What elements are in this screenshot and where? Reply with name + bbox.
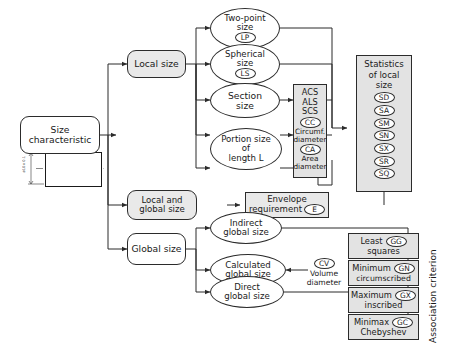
part-dimension-text: ø10±0.1 <box>22 156 26 173</box>
statistics-code-sm: SM <box>374 118 395 129</box>
section-abbr-scs: SCS <box>302 107 318 117</box>
local-and-global-line2: global size <box>139 205 185 214</box>
statistics-code-sr: SR <box>374 156 395 167</box>
direct-global-line2: global size <box>224 292 270 301</box>
criterion-maximum-inscribed[interactable]: Maximum GX inscribed <box>348 287 419 313</box>
statistics-code-sn: SN <box>374 130 395 141</box>
criterion-least-squares[interactable]: Least GG squares <box>348 233 419 259</box>
maximum-inscribed-line2: inscribed <box>365 301 403 310</box>
volume-diameter-code: CV <box>314 258 335 269</box>
spherical-size-code: LS <box>235 68 256 79</box>
association-criterion-label: Association criterion <box>428 233 438 343</box>
statistics-code-sx: SX <box>374 143 395 154</box>
section-code-ca: CA <box>300 144 321 155</box>
volume-diameter-caption-line2: diameter <box>307 278 341 287</box>
minimum-circumscribed-line2: circumscribed <box>356 274 411 283</box>
minimax-chebyshev-line1: Minimax <box>354 318 389 327</box>
section-ca-caption-line2: diameter <box>293 163 326 171</box>
minimum-circumscribed-code: GN <box>394 263 415 274</box>
node-portion-size[interactable]: Portion size of length L <box>210 128 282 170</box>
size-characteristic-line2: characteristic <box>29 135 92 145</box>
indirect-global-line2: global size <box>223 228 269 237</box>
local-size-label: Local size <box>134 59 179 69</box>
statistics-title-line1: Statistics <box>364 60 403 69</box>
minimax-chebyshev-line2: Chebyshev <box>361 328 407 337</box>
node-two-point-size[interactable]: Two-point size LP <box>210 8 280 49</box>
node-indirect-global-size[interactable]: Indirect global size <box>210 212 282 244</box>
least-squares-line2: squares <box>367 247 400 256</box>
criterion-minimum-circumscribed[interactable]: Minimum GN circumscribed <box>348 260 419 286</box>
two-point-size-code: LP <box>235 32 256 43</box>
portion-size-line3: length L <box>229 154 264 163</box>
two-point-size-line2: size <box>237 23 254 32</box>
node-size-characteristic[interactable]: Size characteristic <box>20 116 100 154</box>
statistics-code-sa: SA <box>374 105 395 116</box>
envelope-line1: Envelope <box>267 195 307 204</box>
section-cc-caption-line2: diameter <box>293 136 326 144</box>
maximum-inscribed-line1: Maximum <box>351 291 392 300</box>
node-local-and-global-size[interactable]: Local and global size <box>127 190 197 220</box>
statistics-code-sd: SD <box>374 92 395 103</box>
global-size-label: Global size <box>131 244 181 254</box>
diagram-canvas: ø10±0.1 Size characteristic Local size L… <box>0 0 454 359</box>
panel-statistics-of-local-size: Statistics of local size SD SA SM SN SX … <box>356 55 412 192</box>
panel-section-detail: ACS ALS SCS CC Circumf. diameter CA Area… <box>293 84 327 178</box>
section-size-line2: size <box>236 101 254 111</box>
least-squares-line1: Least <box>360 237 382 246</box>
note-volume-diameter: CV Volume diameter <box>303 258 345 287</box>
envelope-code: E <box>304 204 325 215</box>
spherical-size-line2: size <box>237 59 254 68</box>
node-spherical-size[interactable]: Spherical size LS <box>210 44 280 85</box>
statistics-code-sq: SQ <box>374 168 395 179</box>
minimum-circumscribed-line1: Minimum <box>352 264 390 273</box>
node-global-size[interactable]: Global size <box>127 233 186 265</box>
criterion-minimax-chebyshev[interactable]: Minimax GC Chebyshev <box>348 314 419 340</box>
statistics-title-line2: of local <box>368 71 399 80</box>
part-drawing-rect <box>45 152 102 187</box>
volume-diameter-caption-line1: Volume <box>310 269 338 278</box>
dimension-lines <box>28 153 44 184</box>
node-section-size[interactable]: Section size <box>210 83 280 118</box>
node-local-size[interactable]: Local size <box>127 50 186 78</box>
statistics-title-line3: size <box>376 81 393 90</box>
node-direct-global-size[interactable]: Direct global size <box>210 276 284 308</box>
